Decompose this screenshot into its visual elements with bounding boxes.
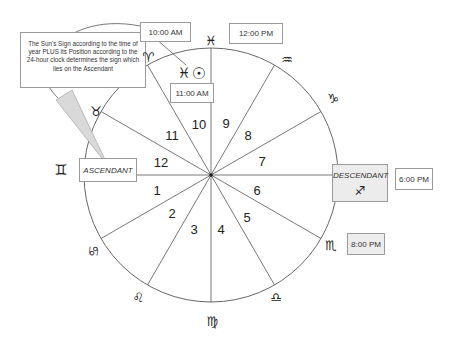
house-12: 12 xyxy=(154,155,168,170)
pisces-icon: ♓ xyxy=(205,33,217,48)
house-4: 4 xyxy=(217,222,224,237)
center-dot xyxy=(209,173,213,177)
cancer-icon: ♋ xyxy=(86,245,101,257)
time-text: 11:00 AM xyxy=(175,89,208,98)
time-label-10am: 10:00 AM xyxy=(140,22,191,42)
time-text: 10:00 AM xyxy=(149,28,183,37)
house-9: 9 xyxy=(222,116,229,131)
capricorn-icon: ♑ xyxy=(327,91,339,106)
taurus-icon: ♉ xyxy=(90,104,102,119)
time-label-12pm: 12:00 PM xyxy=(229,23,283,44)
house-3: 3 xyxy=(190,222,197,237)
virgo-icon: ♍ xyxy=(206,314,218,329)
callout-text: The Sun's Sign according to the time of … xyxy=(27,40,139,72)
house-2: 2 xyxy=(168,206,175,221)
time-text: 12:00 PM xyxy=(239,29,273,38)
time-label-8pm: 8:00 PM xyxy=(347,233,385,255)
sagittarius-icon: ♐ xyxy=(333,184,387,198)
scorpio-icon: ♏ xyxy=(325,238,337,253)
descendant-label: DESCENDANT ♐ xyxy=(332,164,388,202)
time-label-11am: 11:00 AM xyxy=(170,83,214,103)
ascendant-text: ASCENDANT xyxy=(83,166,132,175)
explanation-callout: The Sun's Sign according to the time of … xyxy=(20,32,146,88)
time-text: 6:00 PM xyxy=(399,175,429,184)
libra-icon: ♎ xyxy=(270,290,282,305)
house-8: 8 xyxy=(244,128,251,143)
descendant-text: DESCENDANT xyxy=(333,171,387,180)
time-label-6pm: 6:00 PM xyxy=(395,168,433,190)
aries-icon: ♈ xyxy=(142,50,154,65)
house-7: 7 xyxy=(258,154,265,169)
sun-icon: ☉ xyxy=(192,64,206,83)
aquarius-icon: ♒ xyxy=(281,52,293,67)
house-10: 10 xyxy=(192,117,206,132)
callout-pointer xyxy=(56,90,108,166)
ascendant-label: ASCENDANT xyxy=(79,158,137,182)
gemini-icon: ♊ xyxy=(54,161,67,179)
house-6: 6 xyxy=(253,183,260,198)
house-1: 1 xyxy=(153,183,160,198)
leo-icon: ♌ xyxy=(132,290,144,305)
pisces-icon: ♓ xyxy=(178,65,191,81)
house-11: 11 xyxy=(165,128,179,143)
house-5: 5 xyxy=(243,210,250,225)
time-text: 8:00 PM xyxy=(351,240,381,249)
